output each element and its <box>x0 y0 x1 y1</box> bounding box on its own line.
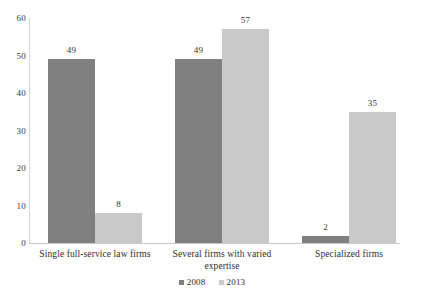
bar-2008-cat2 <box>302 236 349 244</box>
x-axis-label-0: Single full-service law firms <box>25 248 165 260</box>
bar-2013-cat2 <box>349 112 396 243</box>
bar-value-label-2008-cat1: 49 <box>194 46 203 55</box>
bar-2013-cat1 <box>222 29 269 243</box>
bar-value-label-2013-cat1: 57 <box>241 16 250 25</box>
x-axis-label-1: Several firms with varied expertise <box>160 248 285 272</box>
bar-2013-cat0 <box>95 213 142 243</box>
y-axis-tick-30: 30 <box>2 126 26 135</box>
legend-swatch-icon-2008 <box>179 280 184 285</box>
legend-swatch-icon-2013 <box>219 280 224 285</box>
legend-label-2013: 2013 <box>227 278 246 287</box>
x-axis-label-2: Specialized firms <box>289 248 409 260</box>
legend-entry-2008[interactable]: 2008 <box>179 278 206 287</box>
legend-label-2008: 2008 <box>187 278 206 287</box>
y-axis-tick-40: 40 <box>2 89 26 98</box>
bar-2008-cat1 <box>175 59 222 243</box>
y-axis-tick-60: 60 <box>2 14 26 23</box>
y-axis-tick-20: 20 <box>2 164 26 173</box>
legend-entry-2013[interactable]: 2013 <box>219 278 246 287</box>
bar-value-label-2013-cat0: 8 <box>116 200 121 209</box>
plot-area <box>29 18 400 243</box>
bar-2008-cat0 <box>48 59 95 243</box>
x-axis-line <box>29 243 400 244</box>
bar-chart: 0102030405060 Single full-service law fi… <box>0 0 424 294</box>
y-axis-tick-10: 10 <box>2 201 26 210</box>
y-axis-tick-0: 0 <box>2 239 26 248</box>
bar-value-label-2008-cat0: 49 <box>67 46 76 55</box>
y-axis-tick-50: 50 <box>2 51 26 60</box>
y-axis-tick-labels: 0102030405060 <box>0 0 26 294</box>
bar-value-label-2013-cat2: 35 <box>368 99 377 108</box>
chart-legend: 20082013 <box>0 278 424 287</box>
bar-value-label-2008-cat2: 2 <box>323 223 328 232</box>
